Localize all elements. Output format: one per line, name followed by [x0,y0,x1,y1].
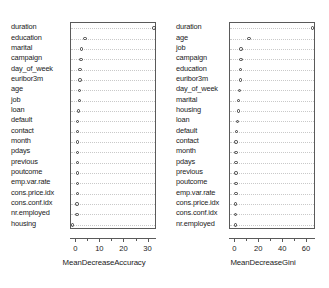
x-axis-gini [229,238,315,239]
category-label: emp.var.rate [11,177,73,187]
category-label: age [11,84,73,94]
x-axis-tick [234,238,235,242]
x-axis-tick [99,238,100,242]
data-point [78,68,81,71]
data-point [234,140,237,143]
gridline [230,225,314,226]
data-point [76,140,79,143]
data-point [77,109,80,112]
data-point [239,78,242,81]
data-point [236,120,239,123]
gridline [230,111,314,112]
x-axis-minor-tick [270,238,271,241]
category-label: contact [11,126,73,136]
gridline [230,80,314,81]
gridline [230,59,314,60]
x-axis-tick [306,238,307,242]
gridline [71,163,155,164]
data-point [234,171,237,174]
data-point [80,47,83,50]
gridline [230,90,314,91]
category-label: nr.employed [11,208,73,218]
data-point [75,202,78,205]
data-point [78,78,81,81]
gridline [71,111,155,112]
x-axis-tick-label: 20 [246,244,270,253]
x-axis-tick [123,238,124,242]
x-axis-tick-label: 40 [270,244,294,253]
category-label: loan [11,105,73,115]
x-axis-tick [282,238,283,242]
category-labels-accuracy: durationeducationmaritalcampaignday_of_w… [11,22,73,229]
panel-mean-decrease-accuracy: durationeducationmaritalcampaignday_of_w… [0,0,165,288]
data-point [311,26,314,29]
gridline [230,132,314,133]
plot-area-accuracy [70,22,156,229]
gridline [230,39,314,40]
x-axis-title-gini: MeanDecreaseGini [164,258,329,267]
x-axis-tick [148,238,149,242]
x-axis-tick-label: 0 [222,244,246,253]
gridline [230,204,314,205]
gridline [71,225,155,226]
x-axis-tick-label: 10 [87,244,111,253]
data-point [234,213,237,216]
data-point [76,120,79,123]
data-point [239,68,242,71]
x-axis-minor-tick [111,238,112,241]
data-point [76,161,79,164]
gridline [71,173,155,174]
gridline [71,80,155,81]
gridline [71,132,155,133]
data-point [152,26,155,29]
data-point [237,109,240,112]
data-point [234,161,237,164]
gridline [71,142,155,143]
gridline [71,90,155,91]
var-importance-figure: durationeducationmaritalcampaignday_of_w… [0,0,329,288]
data-point [79,58,82,61]
gridline [71,121,155,122]
gridline [230,214,314,215]
gridline [230,173,314,174]
data-point [76,171,79,174]
gridline [71,101,155,102]
x-axis-minor-tick [87,238,88,241]
gridline [71,70,155,71]
data-point [76,130,79,133]
data-point [234,182,237,185]
data-point [239,47,242,50]
gridline [230,152,314,153]
data-point [234,192,237,195]
data-point [83,37,86,40]
category-label: cons.price.idx [11,188,73,198]
x-axis-title-accuracy: MeanDecreaseAccuracy [0,258,165,267]
gridline [71,204,155,205]
data-point [75,213,78,216]
data-point [234,151,237,154]
plot-area-gini [229,22,315,229]
category-label: euribor3m [11,74,73,84]
gridline [71,152,155,153]
data-point [247,37,250,40]
x-axis-minor-tick [246,238,247,241]
data-point [238,89,241,92]
category-label: marital [11,43,73,53]
gridline [230,194,314,195]
data-point [234,223,237,226]
gridline [230,183,314,184]
data-point [234,202,237,205]
gridline [71,214,155,215]
category-label: default [11,115,73,125]
x-axis-tick [75,238,76,242]
x-axis-minor-tick [136,238,137,241]
gridline [71,194,155,195]
gridline [230,142,314,143]
x-axis-tick-label: 20 [111,244,135,253]
gridline [230,121,314,122]
category-label: day_of_week [11,64,73,74]
category-label: cons.conf.idx [11,198,73,208]
data-point [235,130,238,133]
x-axis-tick-label: 0 [63,244,87,253]
gridline [230,28,314,29]
